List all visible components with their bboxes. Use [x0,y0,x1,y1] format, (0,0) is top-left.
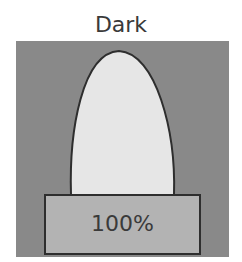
diagram-title: Dark [0,12,242,38]
base-label: 100% [45,211,200,237]
